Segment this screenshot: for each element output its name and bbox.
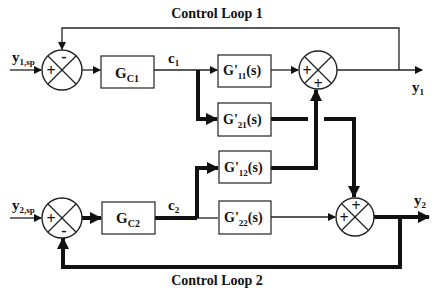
c1-label: c1	[168, 50, 180, 68]
control-loop-1-title: Control Loop 1	[171, 6, 263, 21]
summer-setpoint-1: + -	[42, 48, 82, 90]
summer-output-2: + +	[336, 197, 374, 236]
svg-text:-: -	[61, 48, 66, 65]
c1-branch-wire	[198, 70, 206, 119]
svg-text:+: +	[46, 210, 55, 227]
svg-text:-: -	[61, 222, 66, 239]
c2-branch-wire	[197, 168, 206, 218]
svg-text:+: +	[46, 62, 55, 79]
y2-output-label: y2	[414, 192, 427, 210]
controller-gc1-block: GC1	[101, 56, 154, 88]
c2-label: c2	[168, 197, 180, 215]
svg-text:+: +	[351, 197, 360, 214]
process-g22-block: G'22(s)	[219, 201, 271, 234]
block-diagram: Control Loop 1 Control Loop 2 + - + +	[0, 0, 434, 290]
svg-text:+: +	[313, 75, 322, 92]
process-g21-block: G'21(s)	[218, 103, 271, 136]
y2-setpoint-label: y2,sp	[12, 197, 35, 215]
g21-out-wire-b	[324, 119, 354, 197]
summer-setpoint-2: + -	[42, 198, 82, 239]
y1-output-label: y1	[412, 79, 425, 97]
y1-setpoint-label: y1,sp	[12, 49, 35, 67]
process-g11-block: G'11(s)	[218, 55, 271, 87]
summer-output-1: + +	[299, 51, 337, 92]
svg-text:+: +	[339, 209, 348, 226]
process-g12-block: G'12(s)	[219, 151, 271, 183]
g12-out-wire	[271, 90, 316, 168]
control-loop-2-title: Control Loop 2	[171, 273, 263, 288]
controller-gc2-block: GC2	[102, 202, 155, 234]
svg-text:+: +	[302, 62, 311, 79]
